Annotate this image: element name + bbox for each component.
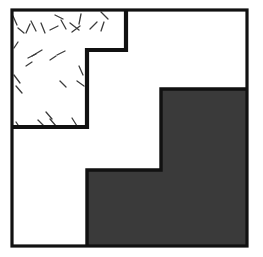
figure-container bbox=[0, 0, 263, 257]
stepped-region-figure bbox=[0, 0, 263, 257]
